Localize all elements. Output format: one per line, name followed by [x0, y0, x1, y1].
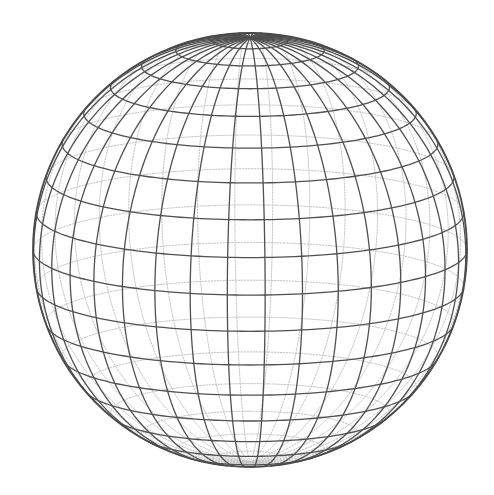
front-grid-line [265, 248, 467, 295]
back-grid-line [250, 80, 461, 462]
front-grid-line [94, 38, 250, 462]
back-grid-line [162, 34, 250, 462]
back-grid-line [250, 37, 406, 462]
back-grid-lines [33, 33, 467, 467]
front-grid-line [250, 38, 303, 467]
back-grid-line [250, 174, 466, 462]
front-grid-line [52, 38, 250, 446]
front-grid-line [33, 252, 265, 296]
wireframe-sphere-figure [0, 0, 494, 495]
back-grid-line [198, 33, 251, 462]
back-grid-line [41, 71, 250, 462]
sphere-outline [33, 33, 467, 467]
front-grid-line [262, 106, 417, 148]
front-grid-line [227, 38, 250, 467]
front-grid-line [46, 174, 264, 219]
front-grid-line [47, 327, 264, 365]
front-grid-line [250, 38, 265, 467]
front-grid-line [64, 362, 263, 396]
front-grid-line [36, 212, 265, 258]
front-grid-line [262, 392, 414, 420]
front-grid-line [264, 173, 454, 220]
back-grid-line [129, 35, 250, 462]
back-grid-line [36, 169, 463, 212]
sphere-canvas [0, 0, 494, 495]
front-grid-line [59, 38, 250, 146]
back-grid-line [142, 411, 359, 442]
front-grid-line [260, 420, 386, 442]
back-grid-line [250, 33, 273, 462]
front-grid-line [155, 38, 250, 466]
front-grid-lines [33, 33, 467, 467]
front-grid-line [250, 38, 371, 465]
